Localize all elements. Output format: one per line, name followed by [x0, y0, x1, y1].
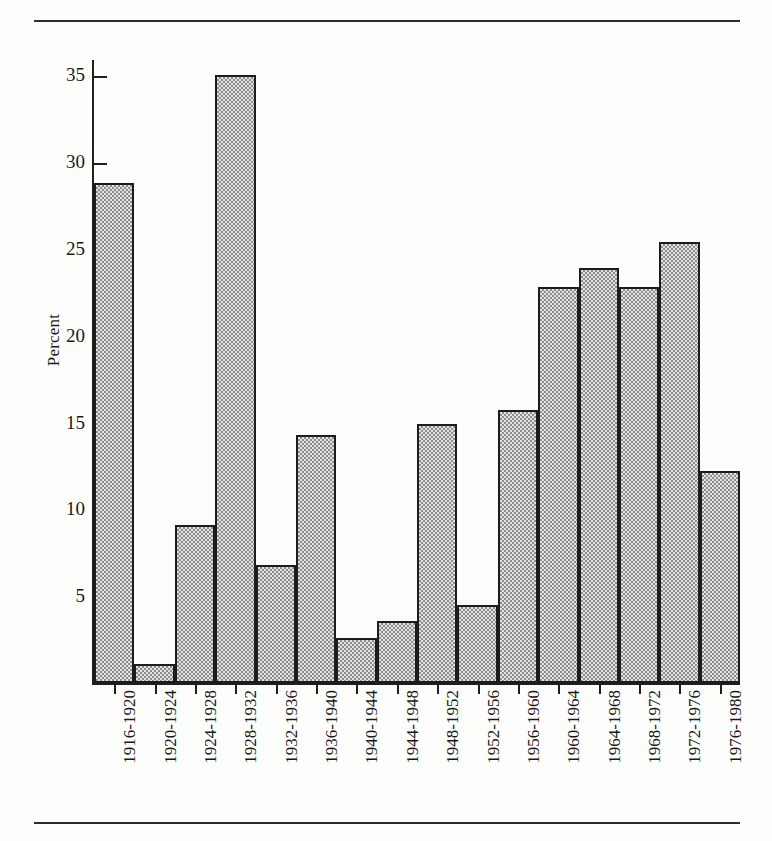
x-label-slot: 1952-1956 — [457, 690, 497, 805]
bar[interactable] — [579, 268, 619, 683]
x-label-slot: 1924-1928 — [175, 690, 215, 805]
bar-slot — [175, 60, 215, 683]
bar-slot — [336, 60, 376, 683]
bar[interactable] — [619, 287, 659, 683]
x-label-slot: 1964-1968 — [579, 690, 619, 805]
x-label-slot: 1976-1980 — [700, 690, 740, 805]
bar-slot — [94, 60, 134, 683]
bar-slot — [296, 60, 336, 683]
x-label-slot: 1944-1948 — [377, 690, 417, 805]
y-tick-label: 5 — [76, 586, 86, 606]
x-label-slot: 1932-1936 — [256, 690, 296, 805]
bar[interactable] — [377, 621, 417, 684]
y-tick-label: 30 — [66, 152, 85, 172]
plot-area: 5101520253035 — [92, 60, 740, 685]
y-axis-title: Percent — [44, 280, 64, 400]
x-label-slot: 1936-1940 — [296, 690, 336, 805]
y-tick-label: 15 — [66, 413, 85, 433]
bar[interactable] — [700, 471, 740, 683]
x-tick-label: 1976-1980 — [727, 690, 745, 764]
x-label-slot: 1968-1972 — [619, 690, 659, 805]
x-label-slot: 1940-1944 — [336, 690, 376, 805]
y-tick-label: 20 — [66, 326, 85, 346]
y-tick-label: 25 — [66, 239, 85, 259]
bar-slot — [417, 60, 457, 683]
bar[interactable] — [296, 435, 336, 683]
bar-slot — [538, 60, 578, 683]
bar[interactable] — [659, 242, 699, 683]
bar[interactable] — [498, 410, 538, 683]
x-label-slot: 1928-1932 — [215, 690, 255, 805]
bar-chart-figure: Percent 5101520253035 1916-19201920-1924… — [0, 0, 772, 841]
bar-slot — [659, 60, 699, 683]
bar-slot — [256, 60, 296, 683]
x-label-slot: 1920-1924 — [134, 690, 174, 805]
y-tick-label: 10 — [66, 499, 85, 519]
bar-slot — [700, 60, 740, 683]
bar-slot — [215, 60, 255, 683]
bars-group — [94, 60, 740, 683]
x-axis-labels: 1916-19201920-19241924-19281928-19321932… — [94, 690, 740, 805]
x-label-slot: 1948-1952 — [417, 690, 457, 805]
bar[interactable] — [336, 638, 376, 683]
x-label-slot: 1956-1960 — [498, 690, 538, 805]
bar[interactable] — [215, 75, 255, 683]
x-label-slot: 1916-1920 — [94, 690, 134, 805]
bar[interactable] — [94, 183, 134, 683]
bar-slot — [498, 60, 538, 683]
bar-slot — [457, 60, 497, 683]
bar-slot — [579, 60, 619, 683]
bar[interactable] — [538, 287, 578, 683]
bar-slot — [134, 60, 174, 683]
bar-slot — [619, 60, 659, 683]
bar[interactable] — [417, 424, 457, 683]
bar-slot — [377, 60, 417, 683]
bar[interactable] — [457, 605, 497, 683]
bar[interactable] — [175, 525, 215, 683]
bar[interactable] — [256, 565, 296, 683]
x-label-slot: 1972-1976 — [659, 690, 699, 805]
x-label-slot: 1960-1964 — [538, 690, 578, 805]
bar[interactable] — [134, 664, 174, 683]
y-tick-label: 35 — [66, 65, 85, 85]
